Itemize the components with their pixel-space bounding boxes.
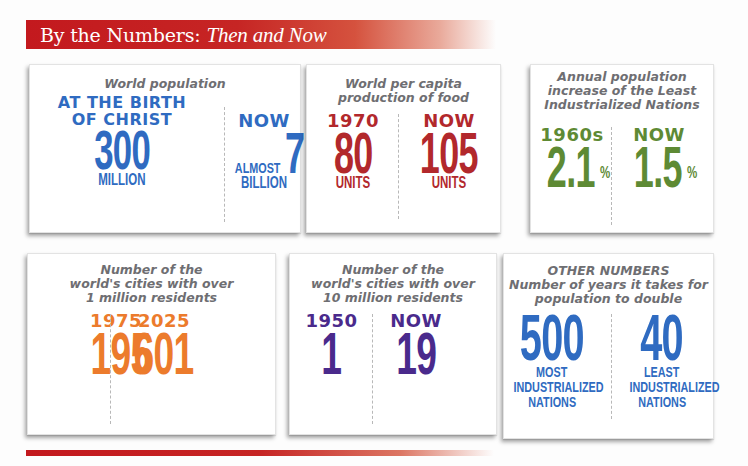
stat-most-industrialized: 500 MOST INDUSTRIALIZED NATIONS [496, 312, 608, 409]
stat-value: 7 [285, 131, 304, 175]
stat-value: 2.1 [547, 145, 595, 189]
stat-1960s: 1960s 2.1% [531, 125, 613, 189]
stat-value: 80 [334, 131, 373, 175]
card-cities-over-1-million: Number of the world's cities with over 1… [27, 253, 276, 435]
bottom-rule [26, 450, 494, 456]
stat-least-industrialized: 40 LEAST INDUSTRIALIZED NATIONS [612, 312, 712, 409]
card-title: World population [30, 77, 300, 91]
card-title-line: Number of the [290, 263, 496, 277]
card-title-line: 1 million residents [28, 291, 275, 305]
card-title: OTHER NUMBERS Number of years it takes f… [504, 264, 713, 306]
card-title-line: World per capita [307, 77, 500, 91]
stat-1950: 1950 1 [290, 311, 373, 377]
header-banner: By the Numbers:Then and Now [26, 20, 496, 49]
dashed-divider [110, 314, 111, 424]
stat-value: 105 [420, 131, 478, 175]
percent-sign: % [600, 151, 610, 195]
dashed-divider [224, 107, 225, 222]
stat-unit: INDUSTRIALIZED [514, 379, 604, 394]
card-cities-over-10-million: Number of the world's cities with over 1… [289, 253, 497, 435]
stat-birth-of-christ: AT THE BIRTH OF CHRIST 300 MILLION [36, 94, 208, 188]
card-title-line: Industrialized Nations [531, 98, 713, 112]
card-title-line: 10 million residents [290, 291, 496, 305]
stat-value: 601 [134, 331, 194, 377]
card-other-numbers: OTHER NUMBERS Number of years it takes f… [503, 253, 714, 439]
card-title: Annual population increase of the Least … [531, 70, 713, 112]
card-world-population: World population AT THE BIRTH OF CHRIST … [29, 64, 301, 233]
card-title-line: production of food [307, 91, 500, 105]
stat-unit: MILLION [98, 172, 145, 188]
header-title-wrap: By the Numbers:Then and Now [40, 23, 327, 48]
stat-1970: 1970 80 UNITS [309, 111, 397, 191]
card-title-line: Annual population [531, 70, 713, 84]
card-title-line: world's cities with over [290, 277, 496, 291]
stat-unit: INDUSTRIALIZED [630, 379, 720, 394]
stat-now: NOW ALMOST7 BILLION [226, 111, 302, 191]
card-title-line: Number of years it takes for [504, 278, 713, 292]
stat-unit: UNITS [336, 175, 371, 191]
card-heading: OTHER NUMBERS [504, 264, 713, 278]
stat-value: 40 [641, 312, 684, 364]
stat-2025: 2025 601 [112, 311, 216, 377]
stat-unit: LEAST [644, 364, 679, 379]
stat-unit: MOST [536, 364, 567, 379]
stat-now: NOW 19 [374, 311, 458, 377]
stat-unit: NATIONS [638, 394, 686, 409]
header-title: By the Numbers: [40, 24, 200, 46]
dashed-divider [611, 127, 612, 225]
card-food-production: World per capita production of food 1970… [306, 64, 501, 233]
stat-unit: NATIONS [528, 394, 576, 409]
stat-value: 500 [520, 312, 584, 364]
card-title-line: world's cities with over [28, 277, 275, 291]
percent-sign: % [687, 151, 697, 195]
card-title: Number of the world's cities with over 1… [290, 263, 496, 305]
stat-now: NOW 105 UNITS [400, 111, 498, 191]
dashed-divider [372, 314, 373, 424]
stat-now: NOW 1.5% [613, 125, 705, 189]
stat-unit: UNITS [432, 175, 467, 191]
stat-label: AT THE BIRTH [36, 94, 208, 111]
stat-value: 1.5 [634, 145, 682, 189]
stat-value: 300 [94, 128, 150, 172]
card-title-line: Number of the [28, 263, 275, 277]
stat-unit: BILLION [241, 175, 287, 191]
stat-value: 19 [396, 331, 436, 377]
stat-value: 1 [321, 331, 341, 377]
card-title: World per capita production of food [307, 77, 500, 105]
card-annual-population-increase: Annual population increase of the Least … [530, 64, 714, 233]
dashed-divider [398, 114, 399, 219]
card-title: Number of the world's cities with over 1… [28, 263, 275, 305]
header-subtitle: Then and Now [206, 23, 326, 47]
card-title-line: increase of the Least [531, 84, 713, 98]
